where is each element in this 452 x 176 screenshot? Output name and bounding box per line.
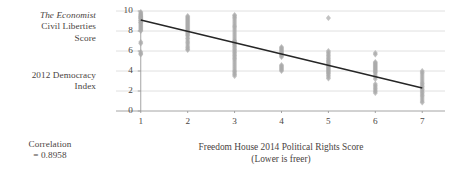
correlation-word: Correlation: [29, 139, 72, 149]
democracy-line1: 2012 Democracy: [32, 70, 96, 80]
x-tick-label: 5: [320, 117, 336, 126]
y-axis-label-civil-liberties: The Economist Civil Liberties Score: [4, 10, 96, 44]
y-tick-label: 0: [117, 106, 133, 115]
y-tick-label: 6: [117, 46, 133, 55]
trendline: [141, 20, 422, 88]
correlation-annotation: Correlation = 0.8958: [4, 139, 96, 162]
scatter-plot-figure: The Economist Civil Liberties Score 2012…: [0, 0, 452, 176]
y-tick-label: 8: [117, 26, 133, 35]
x-axis-title-sub: (Lower is freer): [251, 154, 310, 164]
x-tick-label: 1: [133, 117, 149, 126]
y-tick-label: 4: [117, 66, 133, 75]
plot-area: [116, 9, 445, 113]
y-tick-label: 2: [117, 86, 133, 95]
x-tick-label: 4: [274, 117, 290, 126]
democracy-line2: Index: [75, 81, 96, 91]
score-line: Score: [75, 33, 96, 43]
civil-liberties-line: Civil Liberties: [41, 21, 96, 31]
economist-source-label: The Economist: [40, 10, 96, 20]
plot-svg: [116, 9, 445, 113]
x-axis-title: Freedom House 2014 Political Rights Scor…: [116, 142, 446, 165]
x-tick-label: 7: [414, 117, 430, 126]
y-axis-label-democracy-index: 2012 Democracy Index: [4, 70, 96, 93]
x-tick-label: 3: [227, 117, 243, 126]
data-point: [326, 15, 331, 21]
x-axis-title-main: Freedom House 2014 Political Rights Scor…: [199, 142, 364, 152]
correlation-value: = 0.8958: [33, 150, 66, 160]
x-tick-label: 2: [180, 117, 196, 126]
x-tick-label: 6: [367, 117, 383, 126]
y-tick-label: 10: [117, 6, 133, 15]
